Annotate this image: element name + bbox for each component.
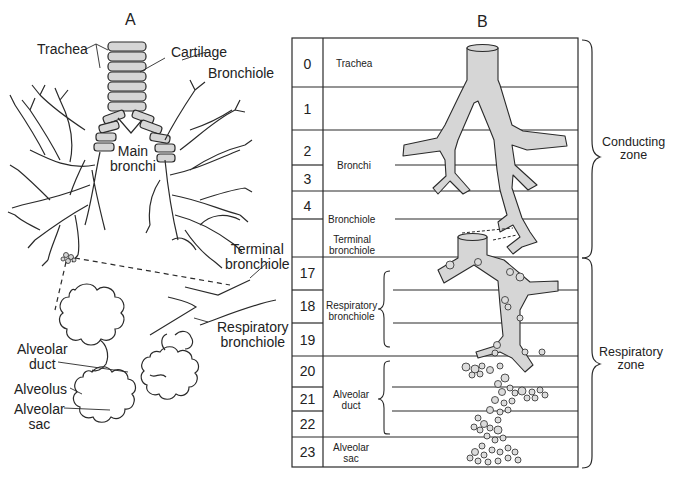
label-bronchiole: Bronchiole: [208, 66, 274, 81]
label-trachea: Trachea: [37, 42, 88, 57]
label-alveolar-sac: Alveolar sac: [14, 402, 65, 431]
label-main-bronchi: Main bronchi: [110, 144, 156, 173]
generation-1: 1: [292, 102, 323, 117]
panel-b-label: B: [477, 14, 488, 31]
segment-bronchiole: Bronchiole: [328, 215, 375, 226]
generation-18: 18: [292, 299, 323, 314]
segment-respiratory-bronchiole: Respiratory bronchiole: [326, 301, 377, 322]
zone-conducting: Conducting zone: [602, 136, 665, 162]
generation-2: 2: [292, 144, 323, 159]
generation-19: 19: [292, 333, 323, 348]
segment-alveolar-duct: Alveolar duct: [333, 390, 369, 411]
generation-22: 22: [292, 417, 323, 432]
label-respiratory-bronchiole: Respiratory bronchiole: [217, 320, 289, 349]
segment-alveolar-sac: Alveolar sac: [333, 443, 369, 464]
generation-21: 21: [292, 392, 323, 407]
generation-0: 0: [292, 57, 323, 72]
segment-bronchi: Bronchi: [337, 161, 371, 172]
inner-braces: [378, 271, 390, 434]
label-cartilage: Cartilage: [171, 45, 227, 60]
label-terminal-bronchiole: Terminal bronchiole: [225, 242, 290, 271]
label-alveolus: Alveolus: [14, 382, 67, 397]
zone-respiratory: Respiratory zone: [599, 346, 663, 372]
generation-20: 20: [292, 364, 323, 379]
segment-trachea: Trachea: [336, 59, 372, 70]
airway-branching-model: [403, 45, 567, 466]
generation-23: 23: [292, 445, 323, 460]
generation-3: 3: [292, 172, 323, 187]
zone-braces: [582, 40, 600, 468]
segment-terminal-bronchiole: Terminal bronchiole: [329, 235, 375, 256]
generation-4: 4: [292, 199, 323, 214]
label-alveolar-duct: Alveolar duct: [17, 342, 68, 371]
generation-17: 17: [292, 266, 323, 281]
panel-a-label: A: [125, 12, 136, 29]
